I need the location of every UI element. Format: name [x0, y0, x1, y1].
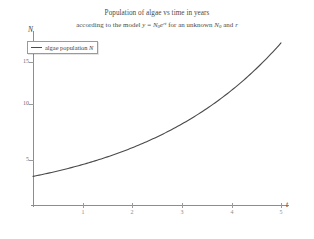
x-tick-mark-1 — [83, 203, 84, 208]
x-axis-line — [31, 205, 289, 206]
data-curve-layer — [0, 0, 314, 239]
x-tick-mark-4 — [232, 203, 233, 208]
unknown-r: r — [235, 21, 238, 28]
x-tick-label-2: 2 — [126, 209, 138, 215]
chart-figure: Population of algae vs time in years acc… — [0, 0, 314, 239]
y-tick-mark-15 — [29, 62, 34, 63]
y-tick-label-15: 15 — [0, 58, 29, 64]
algae-population-curve — [33, 43, 281, 176]
x-tick-mark-2 — [132, 203, 133, 208]
chart-legend[interactable]: algae population N — [27, 41, 98, 54]
x-tick-label-1: 1 — [77, 209, 89, 215]
chart-title-line-2-prefix: according to the model — [76, 21, 142, 28]
chart-title-line-2-suffix: for an unknown — [166, 21, 214, 28]
legend-entry-label: algae population N — [45, 44, 93, 51]
y-tick-label-10: 10 — [0, 100, 29, 106]
x-tick-label-5: 5 — [275, 209, 287, 215]
x-tick-mark-3 — [182, 203, 183, 208]
chart-title: Population of algae vs time in years acc… — [0, 9, 314, 31]
chart-title-line-1: Population of algae vs time in years — [0, 9, 314, 19]
x-axis-label: t — [286, 200, 288, 209]
x-tick-mark-5 — [281, 203, 282, 208]
legend-entry-text: algae population — [45, 44, 89, 51]
legend-line-swatch-icon — [31, 47, 42, 48]
y-tick-mark-5 — [29, 160, 34, 161]
x-tick-label-4: 4 — [226, 209, 238, 215]
legend-entry-symbol: N — [89, 44, 93, 51]
title-conjunction: and — [221, 21, 235, 28]
chart-title-line-2: according to the model y = N0ert for an … — [0, 19, 314, 32]
x-tick-label-3: 3 — [176, 209, 188, 215]
formula-equals: = — [145, 21, 152, 28]
y-tick-label-5: 5 — [0, 156, 29, 162]
y-axis-label: N — [28, 25, 33, 34]
y-tick-mark-10 — [29, 104, 34, 105]
y-axis-line — [33, 31, 34, 207]
